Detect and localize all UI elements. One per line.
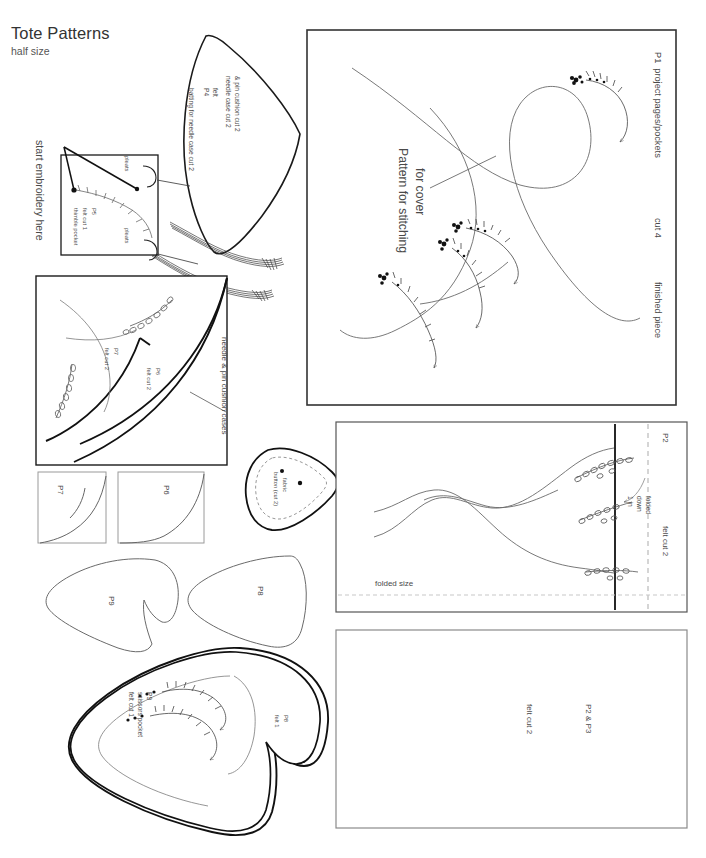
p9-large-id-label: P9 <box>146 692 153 700</box>
p1-cut-label: cut 4 <box>653 218 663 238</box>
p2p3-box <box>336 630 687 828</box>
p7-small-box <box>38 472 106 543</box>
p6-case-id-label: P6 <box>155 368 161 375</box>
p8-large-material-label: felt 1 <box>274 715 280 728</box>
p9-small-label: P9 <box>106 596 115 606</box>
fabric-button-name-label: fabric <box>282 478 288 492</box>
folded-label: folded <box>645 496 652 514</box>
p6-small-label: P6 <box>161 485 170 495</box>
folded-size-label: folded size <box>375 580 413 589</box>
start-embroidery-label: start embroidery here <box>33 140 45 241</box>
p1-box <box>307 30 676 405</box>
p9-large-name-label: scissors pocket <box>137 692 144 737</box>
pattern-sheet: Tote Patterns half size start embroidery… <box>0 0 706 858</box>
p5-id-label: P5 <box>91 208 97 215</box>
p9-scissors-pocket-shape <box>69 648 328 835</box>
p2p3-id-label: P2 & P3 <box>583 704 592 733</box>
p2-material-label: felt cut 2 <box>660 526 669 556</box>
p9-large-material-label: felt cut 1 <box>128 692 135 717</box>
p6-case-material-label: felt cut 2 <box>146 368 152 390</box>
p4-cut-a-label: needle case cut 2 <box>225 76 232 128</box>
p5-name-label: thimble pocket <box>73 208 79 245</box>
pattern-for-stitching-label-b: for cover <box>412 168 426 215</box>
down-label: down <box>636 496 643 512</box>
pleats-bottom-label: pleats <box>124 228 130 243</box>
p4-material-label: felt <box>212 88 219 97</box>
p1-heading-label: P1 project pages/pockets <box>653 52 663 158</box>
fabric-button-shape <box>246 448 338 530</box>
p1-finished-piece-label: finished piece <box>653 282 663 338</box>
p2-id-label: P2 <box>660 433 669 443</box>
pleats-top-label: pleats <box>124 156 130 171</box>
page-title: Tote Patterns <box>11 24 110 42</box>
p4-cut-b-label: & pin cushion cut 2 <box>234 76 241 132</box>
p8-small-shape <box>188 556 306 647</box>
batting-note-label: batting for needle case cut 2 <box>188 88 195 171</box>
needle-pin-cushion-cases-label: needle & pin cushion cases <box>219 337 228 434</box>
p2p3-material-label: felt cut 2 <box>524 704 533 734</box>
p7-case-material-label: felt cut 2 <box>104 348 110 370</box>
p7-small-label: P7 <box>55 485 64 495</box>
p5-material-label: felt cut 1 <box>82 208 88 230</box>
fabric-button-cut-label: button (cut 2) <box>273 472 279 506</box>
p4-id-label: P4 <box>203 88 210 96</box>
page-subtitle: half size <box>11 46 50 58</box>
pattern-for-stitching-label-a: Pattern for stitching <box>395 148 409 253</box>
one-inch-label: 1 in <box>627 496 634 507</box>
pattern-artwork <box>0 0 706 858</box>
pin-cushion-case-box <box>36 276 227 465</box>
p7-case-id-label: P7 <box>113 348 119 355</box>
p6-small-box <box>118 472 204 543</box>
p4-shape <box>184 36 300 254</box>
p8-small-label: P8 <box>255 586 264 596</box>
p8-large-id-label: P8 <box>283 715 289 722</box>
